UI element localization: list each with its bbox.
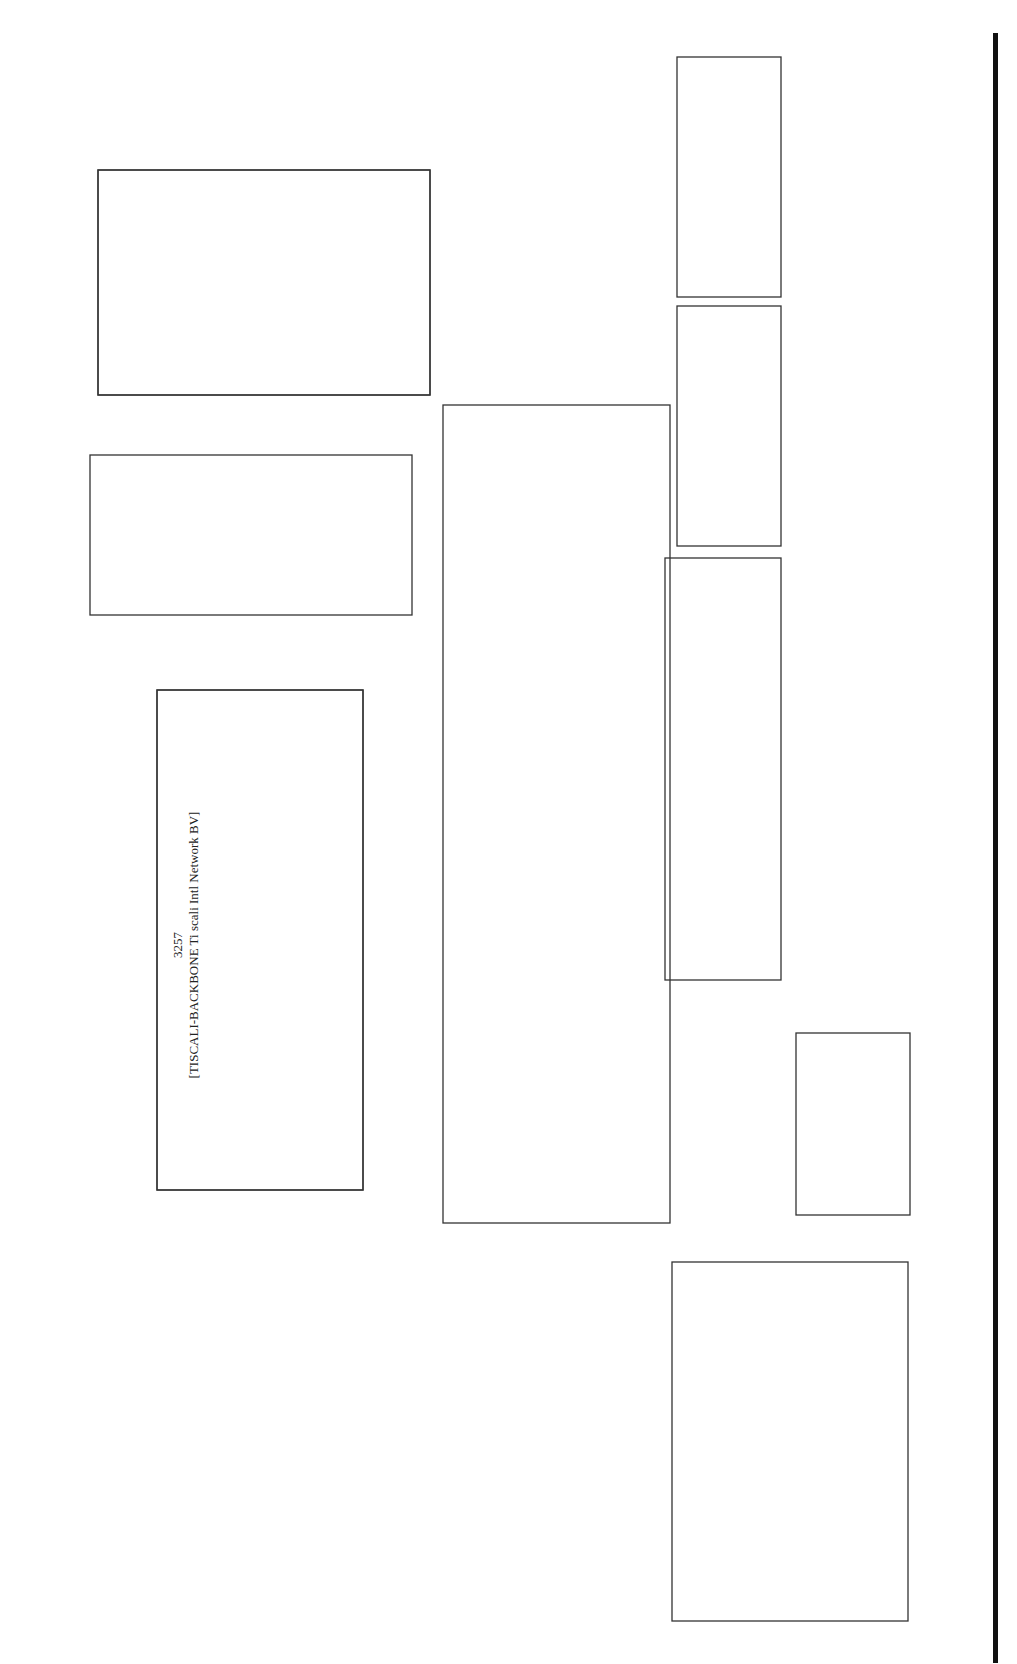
cluster-39848-frame — [677, 57, 781, 297]
cluster-c4l-25577-frame — [90, 455, 412, 615]
cluster-41173-frame — [443, 405, 670, 1223]
cluster-28866-frame — [796, 1033, 910, 1215]
cluster-20807-frame — [672, 1262, 908, 1621]
cluster-41731-frame — [677, 306, 781, 546]
cluster-40989-box — [665, 558, 781, 980]
cluster-24867-frame — [98, 170, 430, 395]
diagram-visible — [0, 0, 1017, 1664]
